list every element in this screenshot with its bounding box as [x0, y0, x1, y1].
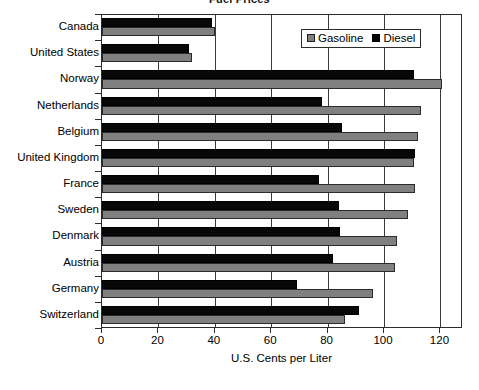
bar-gasoline: [102, 315, 345, 324]
bar-group: [102, 198, 461, 224]
bar-group: [102, 224, 461, 250]
bar-group: [102, 94, 461, 120]
bar-group: [102, 120, 461, 146]
y-axis-labels: CanadaUnited StatesNorwayNetherlandsBelg…: [0, 14, 99, 328]
bar-diesel: [102, 280, 297, 289]
legend-label-diesel: Diesel: [383, 32, 415, 44]
bar-diesel: [102, 44, 189, 53]
bar-gasoline: [102, 184, 415, 193]
bar-group: [102, 172, 461, 198]
x-axis-tick: [101, 328, 102, 333]
bar-diesel: [102, 97, 322, 106]
bar-diesel: [102, 70, 414, 79]
y-axis-label-norway: Norway: [3, 72, 99, 84]
bar-gasoline: [102, 132, 418, 141]
x-axis-tick-label: 20: [137, 334, 177, 346]
bar-gasoline: [102, 106, 421, 115]
bar-gasoline: [102, 263, 395, 272]
chart-legend: Gasoline Diesel: [301, 29, 421, 48]
x-axis-tick-label: 40: [194, 334, 234, 346]
plot-area: [101, 14, 462, 328]
bar-group: [102, 303, 461, 329]
y-axis-label-united-states: United States: [3, 46, 99, 58]
bar-gasoline: [102, 210, 408, 219]
y-axis-label-sweden: Sweden: [3, 203, 99, 215]
bar-group: [102, 277, 461, 303]
bar-gasoline: [102, 53, 192, 62]
x-axis-tick: [270, 328, 271, 333]
y-axis-label-france: France: [3, 177, 99, 189]
x-axis-tick-label: 100: [363, 334, 403, 346]
bar-diesel: [102, 18, 212, 27]
bar-diesel: [102, 254, 333, 263]
x-axis-tick: [383, 328, 384, 333]
bar-gasoline: [102, 158, 414, 167]
x-axis-tick: [214, 328, 215, 333]
bar-gasoline: [102, 236, 397, 245]
x-axis-title: U.S. Cents per Liter: [101, 352, 462, 364]
x-axis-tick-label: 80: [307, 334, 347, 346]
chart-figure: Fuel Prices CanadaUnited StatesNorwayNet…: [0, 0, 479, 390]
diesel-swatch-icon: [372, 34, 380, 42]
legend-entry-gasoline: Gasoline: [307, 32, 363, 44]
y-axis-label-austria: Austria: [3, 256, 99, 268]
gasoline-swatch-icon: [307, 34, 315, 42]
bar-gasoline: [102, 27, 215, 36]
y-axis-label-belgium: Belgium: [3, 125, 99, 137]
chart-title: Fuel Prices: [0, 0, 479, 5]
bar-diesel: [102, 227, 340, 236]
bar-gasoline: [102, 79, 442, 88]
x-axis-tick-label: 60: [250, 334, 290, 346]
x-axis-tick: [439, 328, 440, 333]
bar-diesel: [102, 201, 339, 210]
legend-entry-diesel: Diesel: [372, 32, 415, 44]
y-axis-label-germany: Germany: [3, 282, 99, 294]
x-axis-tick: [157, 328, 158, 333]
x-axis-tick-label: 0: [81, 334, 121, 346]
bar-diesel: [102, 175, 319, 184]
bar-diesel: [102, 123, 342, 132]
bar-diesel: [102, 306, 359, 315]
x-axis-tick-label: 120: [419, 334, 459, 346]
bar-group: [102, 251, 461, 277]
bar-group: [102, 67, 461, 93]
y-axis-label-switzerland: Switzerland: [3, 308, 99, 320]
bar-gasoline: [102, 289, 373, 298]
y-axis-label-united-kingdom: United Kingdom: [3, 151, 99, 163]
legend-label-gasoline: Gasoline: [318, 32, 363, 44]
x-axis-tick-labels: 020406080100120: [0, 334, 479, 350]
y-axis-label-denmark: Denmark: [3, 229, 99, 241]
x-axis-tick: [327, 328, 328, 333]
bar-group: [102, 146, 461, 172]
y-axis-label-canada: Canada: [3, 20, 99, 32]
bar-diesel: [102, 149, 415, 158]
y-axis-label-netherlands: Netherlands: [3, 99, 99, 111]
